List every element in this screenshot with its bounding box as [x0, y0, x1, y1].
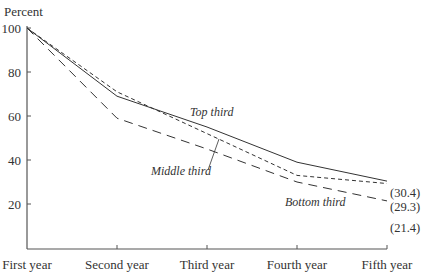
x-tick-label: Fourth year: [267, 257, 328, 272]
y-tick-label: 80: [8, 65, 21, 80]
y-tick-label: 100: [2, 21, 22, 36]
series-label-bottom-third: Bottom third: [285, 195, 347, 209]
y-tick-label: 20: [8, 197, 21, 212]
y-axis-label: Percent: [4, 4, 43, 19]
y-tick-label: 60: [8, 109, 21, 124]
x-tick-label: First year: [2, 257, 52, 272]
y-tick-label: 40: [8, 153, 21, 168]
line-chart: Percent 20406080100 First yearSecond yea…: [0, 0, 422, 278]
series-label-top-third: Top third: [190, 105, 234, 119]
x-tick-label: Fifth year: [362, 257, 414, 272]
middle-third-leader-line: [208, 139, 219, 170]
end-value-label: (21.4): [390, 221, 420, 235]
axes: [27, 26, 387, 249]
x-tick-label: Second year: [85, 257, 150, 272]
end-value-label: (29.3): [390, 200, 420, 214]
end-value-label: (30.4): [390, 186, 420, 200]
series-label-middle-third: Middle third: [150, 164, 212, 178]
x-tick-label: Third year: [180, 257, 235, 272]
